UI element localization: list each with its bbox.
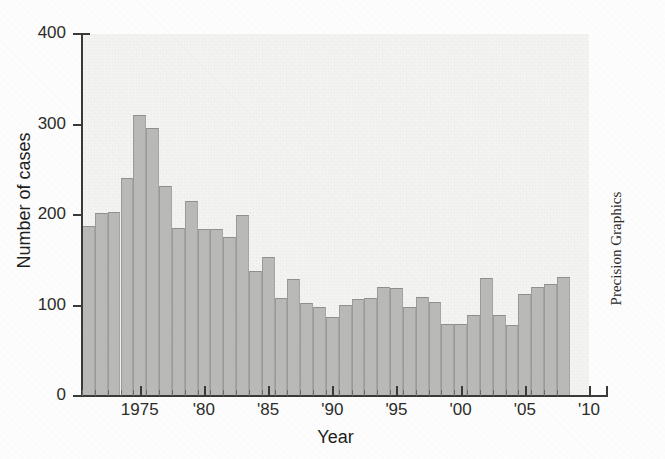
bar — [223, 237, 236, 396]
x-minor-tick — [82, 390, 83, 396]
bar — [249, 271, 262, 396]
x-tick — [204, 386, 206, 397]
x-minor-tick — [352, 390, 353, 396]
bar — [185, 201, 198, 396]
x-minor-tick — [300, 390, 301, 396]
bar — [326, 317, 339, 396]
x-minor-tick — [185, 390, 186, 396]
y-tick — [73, 124, 83, 126]
bar — [518, 294, 531, 396]
x-tick-label: '95 — [385, 400, 407, 420]
x-minor-tick — [441, 390, 442, 396]
x-minor-tick — [146, 390, 147, 396]
x-minor-tick — [326, 390, 327, 396]
bar — [172, 228, 185, 396]
x-tick — [140, 386, 142, 397]
x-minor-tick — [133, 390, 134, 396]
bar — [493, 315, 506, 396]
bar — [441, 324, 454, 396]
bar — [352, 299, 365, 396]
x-minor-tick — [454, 390, 455, 396]
bar — [159, 186, 172, 396]
bar — [82, 226, 95, 396]
bar — [210, 229, 223, 396]
bar — [506, 325, 519, 396]
bar — [236, 215, 249, 396]
x-minor-tick — [364, 390, 365, 396]
x-minor-tick — [429, 390, 430, 396]
x-minor-tick — [506, 390, 507, 396]
bar — [300, 303, 313, 396]
x-tick — [268, 386, 270, 397]
x-minor-tick — [390, 390, 391, 396]
y-tick — [73, 214, 83, 216]
bar — [146, 128, 159, 396]
x-tick — [589, 386, 591, 397]
x-tick-label: '85 — [257, 400, 279, 420]
bar — [287, 279, 300, 396]
y-tick — [73, 305, 83, 307]
x-tick — [525, 386, 527, 397]
x-minor-tick — [95, 390, 96, 396]
x-minor-tick — [416, 390, 417, 396]
credit-label: Precision Graphics — [608, 154, 625, 344]
x-minor-tick — [377, 390, 378, 396]
x-minor-tick — [249, 390, 250, 396]
x-axis-line — [81, 395, 608, 397]
x-minor-tick — [557, 390, 558, 396]
bar — [557, 277, 570, 396]
y-tick-label: 400 — [26, 23, 66, 43]
bar — [108, 212, 121, 396]
x-tick — [332, 386, 334, 397]
x-minor-tick — [467, 390, 468, 396]
x-minor-tick — [159, 390, 160, 396]
x-minor-tick — [287, 390, 288, 396]
bar — [364, 298, 377, 396]
x-tick-label: '00 — [450, 400, 472, 420]
x-tick — [396, 386, 398, 397]
bar — [531, 287, 544, 396]
bar — [480, 278, 493, 396]
y-axis-title: Number of cases — [14, 91, 35, 311]
bar — [262, 257, 275, 396]
x-minor-tick — [108, 390, 109, 396]
x-minor-tick — [531, 390, 532, 396]
x-minor-tick — [198, 390, 199, 396]
bar-series — [82, 34, 589, 396]
bar — [339, 305, 352, 396]
x-minor-tick — [236, 390, 237, 396]
x-axis-right-cap — [606, 386, 608, 397]
bar — [544, 284, 557, 396]
x-tick-label: '10 — [578, 400, 600, 420]
x-minor-tick — [121, 390, 122, 396]
bar — [121, 178, 134, 396]
x-minor-tick — [480, 390, 481, 396]
x-minor-tick — [403, 390, 404, 396]
x-minor-tick — [518, 390, 519, 396]
x-minor-tick — [223, 390, 224, 396]
bar — [133, 115, 146, 396]
bar — [313, 307, 326, 396]
bar — [377, 287, 390, 397]
x-minor-tick — [210, 390, 211, 396]
bar — [198, 229, 211, 396]
x-tick-label: '05 — [514, 400, 536, 420]
chart-figure: 0100200300400 1975'80'85'90'95'00'05'10 … — [0, 0, 665, 459]
y-tick — [73, 33, 83, 35]
bar — [429, 302, 442, 396]
x-tick-label: '90 — [321, 400, 343, 420]
bar — [390, 288, 403, 396]
x-axis-title: Year — [82, 427, 589, 448]
x-minor-tick — [275, 390, 276, 396]
bar — [416, 297, 429, 396]
x-tick-label: '80 — [193, 400, 215, 420]
y-tick-label: 0 — [26, 385, 66, 405]
x-minor-tick — [339, 390, 340, 396]
bar — [467, 315, 480, 396]
x-minor-tick — [262, 390, 263, 396]
bar — [95, 213, 108, 396]
x-tick — [461, 386, 463, 397]
x-minor-tick — [313, 390, 314, 396]
bar — [403, 307, 416, 396]
x-minor-tick — [493, 390, 494, 396]
